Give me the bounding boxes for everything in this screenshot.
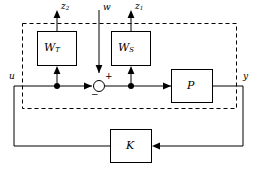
plant-label-text: P — [187, 79, 194, 92]
signal-y-text: y — [243, 71, 248, 81]
sum-plus-sign: + — [105, 72, 113, 81]
sum-minus-sign: − — [91, 90, 99, 99]
block-diagram: z2 w z1 WT WS u y + − P K — [0, 0, 257, 169]
signal-z2-sub: 2 — [66, 5, 70, 11]
signal-label-z1: z1 — [135, 2, 143, 12]
sum-plus-text: + — [105, 71, 113, 81]
weight-t-base: W — [44, 41, 55, 54]
arrowhead-into-controller — [152, 143, 160, 150]
sum-minus-text: − — [91, 89, 99, 99]
plant-label: P — [187, 80, 194, 91]
signal-label-u: u — [9, 72, 15, 81]
weight-t-sub: T — [55, 46, 60, 54]
weight-t-label: WT — [44, 42, 60, 54]
arrowhead-into-plant — [163, 83, 171, 90]
controller-label-text: K — [126, 139, 134, 152]
signal-z1-sub: 1 — [140, 5, 144, 11]
weight-s-base: W — [118, 41, 129, 54]
arrowhead-into-weight-t — [54, 66, 61, 74]
weight-s-label: WS — [118, 42, 134, 54]
arrowhead-into-weight-s — [128, 66, 135, 74]
signal-label-y: y — [243, 72, 248, 81]
weight-s-sub: S — [129, 46, 134, 54]
signal-w-text: w — [103, 2, 111, 12]
arrowhead-w-into-sum — [96, 65, 103, 73]
controller-label: K — [126, 140, 134, 151]
arrowhead-z2 — [54, 10, 61, 18]
signal-u-text: u — [9, 71, 15, 81]
signal-label-w: w — [103, 3, 111, 12]
arrowhead-z1 — [128, 10, 135, 18]
signal-label-z2: z2 — [61, 2, 69, 12]
